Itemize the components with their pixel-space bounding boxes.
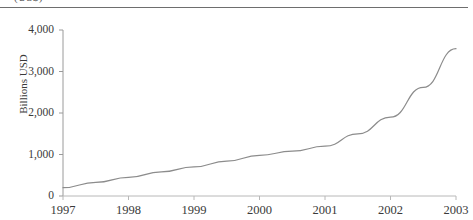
x-tick-label: 2003 xyxy=(426,204,473,217)
y-axis-ticks xyxy=(59,30,63,196)
x-axis-ticks xyxy=(63,196,456,200)
y-tick-label: 1,000 xyxy=(8,149,54,161)
x-tick-label: 1999 xyxy=(164,204,224,217)
x-tick-label: 2000 xyxy=(230,204,290,217)
y-tick-label: 0 xyxy=(8,190,54,202)
x-tick-label: 1997 xyxy=(33,204,93,217)
y-tick-label: 3,000 xyxy=(8,66,54,78)
y-tick-label: 2,000 xyxy=(8,107,54,119)
y-tick-label: 4,000 xyxy=(8,24,54,36)
x-tick-label: 2002 xyxy=(361,204,421,217)
x-tick-label: 1998 xyxy=(99,204,159,217)
x-tick-label: 2001 xyxy=(295,204,355,217)
data-series-line xyxy=(63,49,456,188)
